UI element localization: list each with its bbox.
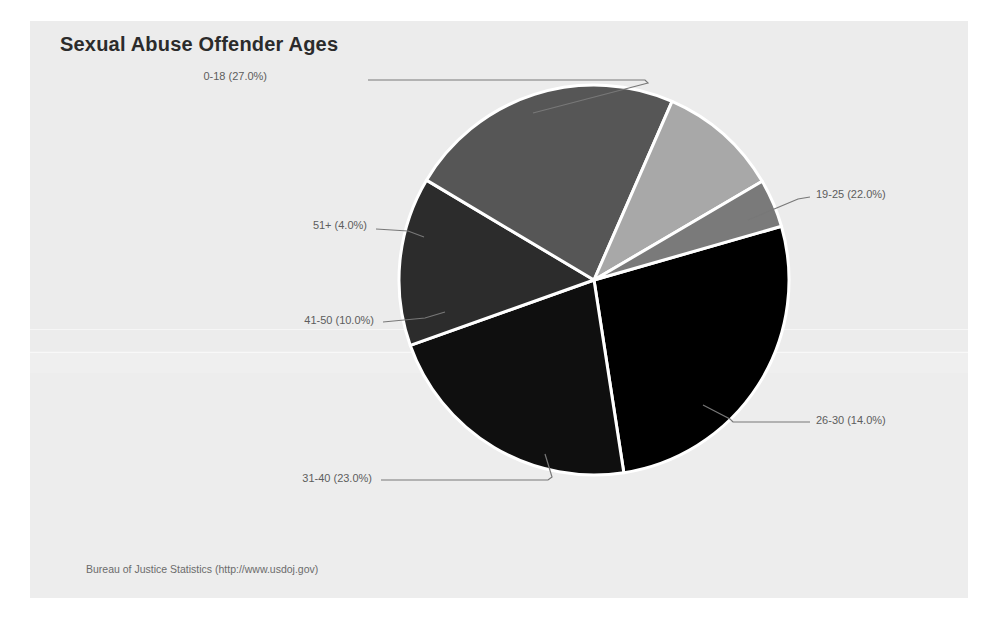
pie-label-41-50: 41-50 (10.0%) <box>0 314 374 326</box>
chart-screenshot: Sexual Abuse Offender Ages 0-18 (27.0%)1… <box>0 0 999 624</box>
pie-label-31-40: 31-40 (23.0%) <box>0 472 372 484</box>
pie-label-26-30: 26-30 (14.0%) <box>816 414 886 426</box>
pie-slice-group <box>399 85 789 475</box>
pie-label-51-: 51+ (4.0%) <box>0 219 367 231</box>
pie-label-19-25: 19-25 (22.0%) <box>816 188 886 200</box>
pie-label-0-18: 0-18 (27.0%) <box>0 70 267 82</box>
chart-source-caption: Bureau of Justice Statistics (http://www… <box>86 563 318 575</box>
pie-chart <box>0 0 999 624</box>
